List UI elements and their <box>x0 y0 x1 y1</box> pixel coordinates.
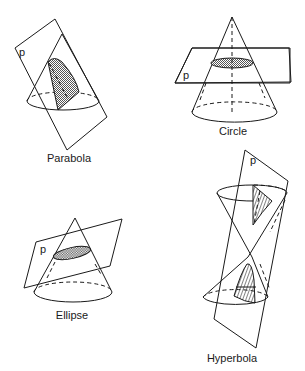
upper-cone-rim-front <box>217 193 254 201</box>
plane-label: p <box>183 69 189 81</box>
plane-label: p <box>40 243 46 255</box>
circle-panel: p Circle <box>175 17 291 137</box>
plane-label: p <box>19 46 25 58</box>
ellipse-section <box>52 244 91 263</box>
caption-ellipse: Ellipse <box>56 309 88 321</box>
lower-hidden <box>260 264 270 290</box>
caption-hyperbola: Hyperbola <box>207 352 258 364</box>
upper-hidden <box>270 200 285 232</box>
caption-parabola: Parabola <box>47 152 92 164</box>
conic-sections-diagram: p Parabola p Circle p <box>0 0 305 371</box>
cone-base-front <box>192 112 277 122</box>
plane-p <box>214 150 288 348</box>
hyperbola-branch-upper <box>253 185 272 225</box>
cone-base-back <box>34 282 112 292</box>
upper-cone-rim-back <box>217 185 287 193</box>
parabola-section <box>48 59 79 111</box>
upper-cone-side-left <box>217 193 252 257</box>
caption-circle: Circle <box>219 125 247 137</box>
lower-base-front <box>203 297 268 304</box>
hidden-side <box>47 262 55 278</box>
cone-base-front <box>34 292 112 302</box>
ellipse-panel: p Ellipse <box>24 218 122 321</box>
hyperbola-panel: p Hyperbola <box>203 150 288 364</box>
cone-base-back <box>192 102 277 112</box>
parabola-panel: p Parabola <box>15 19 107 164</box>
hyperbola-branch-lower <box>234 264 255 303</box>
plane-label: p <box>250 154 256 166</box>
